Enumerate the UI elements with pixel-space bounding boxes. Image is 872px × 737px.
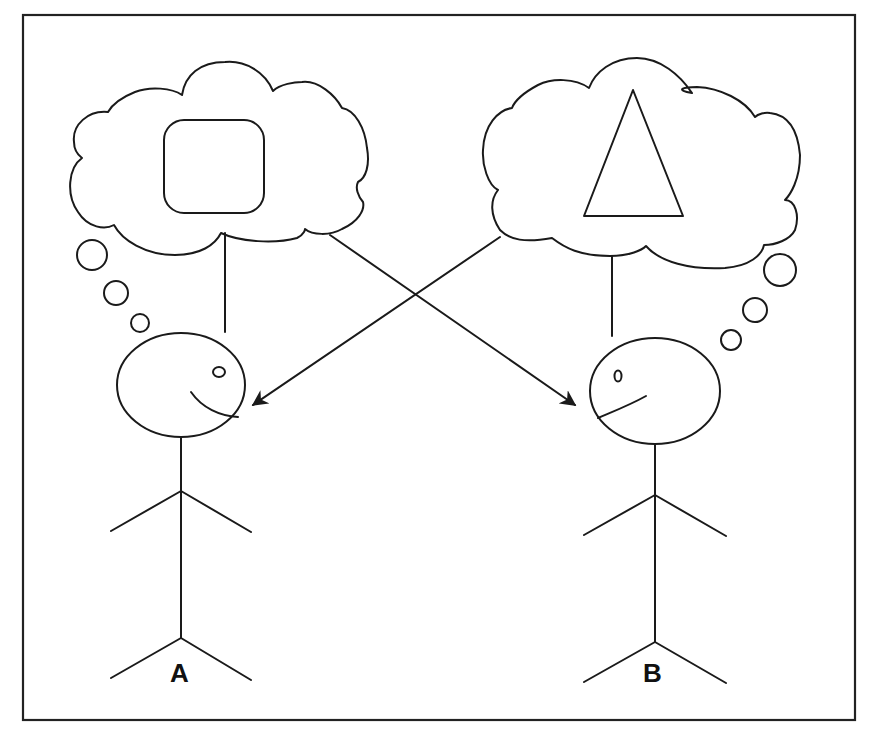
triangle-icon — [584, 90, 683, 216]
thought-bubble-a — [70, 62, 368, 332]
thought-dot-small-a — [131, 314, 149, 332]
communication-diagram — [0, 0, 872, 737]
left-arm-a — [111, 491, 181, 531]
cloud-b-outline — [483, 58, 800, 268]
diagram-frame — [23, 15, 855, 720]
thought-bubble-b — [483, 58, 800, 350]
thought-dot-large-a — [77, 240, 107, 270]
stick-figure-b — [584, 338, 726, 683]
thought-dot-medium-a — [104, 281, 128, 305]
person-a-label: A — [170, 660, 189, 686]
person-b-label: B — [643, 660, 662, 686]
cloud-a-outline — [70, 62, 368, 255]
thought-dot-medium-b — [743, 298, 767, 322]
rounded-square-icon — [164, 120, 264, 213]
stick-figure-a — [111, 333, 251, 680]
right-leg-a — [181, 638, 251, 680]
head-a — [117, 333, 245, 437]
thought-dot-large-b — [764, 254, 796, 286]
thought-dot-small-b — [721, 330, 741, 350]
right-arm-b — [655, 495, 726, 536]
arrow-bubble-a-to-person-b — [330, 235, 575, 405]
arrow-bubble-b-to-person-a — [253, 237, 500, 405]
right-leg-b — [655, 642, 726, 683]
left-arm-b — [584, 495, 655, 535]
eye-a — [213, 367, 225, 377]
eye-b — [615, 371, 622, 382]
smile-b — [598, 396, 646, 418]
right-arm-a — [181, 491, 251, 532]
smile-a — [191, 392, 238, 417]
head-b — [590, 338, 720, 444]
